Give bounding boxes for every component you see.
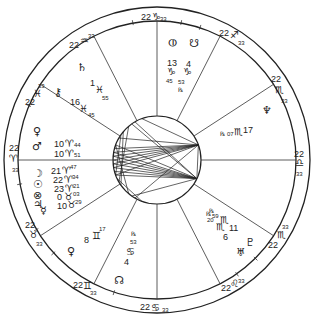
svg-text:♑: ♑	[183, 66, 192, 77]
svg-text:♈: ♈	[65, 148, 74, 159]
svg-text:22: 22	[73, 280, 83, 290]
svg-text:33: 33	[160, 16, 167, 22]
natal-chart-wheel: 22 ♈ 33 22 ♉ 33 22 ♊ 33 22 ♋ 33 22 ♌ 33 …	[0, 0, 312, 322]
house-cusp-line-2	[40, 184, 120, 236]
aspect-lines	[113, 119, 198, 202]
svg-text:♏: ♏	[216, 221, 225, 232]
zodiac-tick	[181, 20, 182, 25]
svg-text:6: 6	[223, 232, 228, 242]
svg-text:♑: ♑	[167, 66, 176, 77]
svg-text:♂: ♂	[32, 140, 42, 153]
planet-lilith: 13 ♑ 45	[166, 58, 177, 84]
cusp-label-h12: 33 ♓ 22	[25, 83, 45, 107]
svg-text:51: 51	[74, 152, 81, 158]
svg-text:55: 55	[102, 95, 109, 101]
svg-text:22: 22	[9, 143, 19, 153]
svg-text:22: 22	[268, 240, 278, 250]
svg-text:♅: ♅	[236, 246, 246, 259]
svg-text:♀: ♀	[67, 245, 75, 258]
aspect-line	[132, 124, 197, 179]
svg-text:☋: ☋	[189, 37, 199, 50]
svg-text:℞: ℞	[220, 131, 225, 137]
aspect-line	[132, 179, 197, 196]
svg-text:33: 33	[12, 167, 19, 173]
svg-text:33: 33	[281, 98, 288, 104]
svg-text:33: 33	[162, 307, 169, 313]
svg-text:53: 53	[130, 239, 137, 245]
svg-text:♐: ♐	[230, 29, 239, 40]
svg-text:4: 4	[124, 257, 129, 267]
planet-neptune: ♆ ℞ 07 ♏ 17	[220, 104, 272, 137]
house-cusp-line-11	[94, 36, 137, 121]
svg-text:33: 33	[90, 290, 97, 296]
svg-text:♄: ♄	[77, 61, 87, 74]
svg-text:♎: ♎	[295, 157, 304, 168]
svg-text:33: 33	[238, 278, 245, 284]
svg-text:♀: ♀	[33, 125, 41, 138]
cusp-label-h10: 22 ♑ 33	[141, 11, 167, 22]
svg-text:♏: ♏	[275, 84, 284, 95]
svg-text:♋: ♋	[151, 302, 160, 313]
svg-text:♓: ♓	[95, 84, 104, 95]
svg-text:34: 34	[72, 174, 79, 180]
svg-text:33: 33	[238, 40, 245, 46]
svg-text:10: 10	[54, 149, 64, 159]
svg-text:22: 22	[25, 97, 35, 107]
svg-text:11: 11	[229, 223, 238, 233]
svg-text:22: 22	[219, 28, 229, 38]
svg-text:03: 03	[73, 191, 80, 197]
planet-chiron: ⚷ 16 ♓ 45	[54, 86, 95, 118]
svg-text:45: 45	[88, 112, 95, 118]
svg-text:22: 22	[69, 40, 79, 50]
zodiac-tick	[132, 20, 133, 25]
svg-text:22: 22	[140, 302, 150, 312]
svg-text:33: 33	[88, 33, 95, 39]
svg-text:22: 22	[141, 12, 151, 22]
svg-text:♏: ♏	[277, 229, 286, 240]
svg-text:♉: ♉	[29, 229, 38, 240]
svg-text:44: 44	[74, 142, 81, 148]
planet-pluto-group: ℞ ℞ 59 20 ♏ ♏ 11 6 ♇ ♅	[206, 208, 255, 259]
aspect-line	[197, 145, 198, 179]
svg-text:♈: ♈	[9, 153, 18, 164]
cusp-label-h3: 22 ♊ 33	[73, 280, 97, 296]
zodiac-tick	[17, 184, 22, 185]
cusp-label-h5: 22 ♌ 33	[221, 278, 245, 293]
planet-true-node: ℞ 53 ♋ 4 ☊	[114, 231, 137, 287]
aspect-line	[113, 145, 198, 160]
svg-text:22: 22	[271, 74, 281, 84]
svg-text:℞: ℞	[131, 231, 136, 237]
svg-text:8: 8	[84, 235, 89, 245]
svg-text:♏: ♏	[234, 126, 243, 137]
svg-text:33: 33	[282, 224, 289, 230]
cusp-label-h7: 22 ♎ 33	[294, 149, 304, 177]
svg-text:29: 29	[75, 199, 82, 205]
cusp-label-h11: 22 ♒ 33	[69, 33, 95, 50]
svg-text:45: 45	[166, 78, 173, 84]
svg-text:17: 17	[243, 125, 253, 135]
svg-text:⚷: ⚷	[54, 86, 62, 99]
svg-text:10: 10	[54, 139, 64, 149]
svg-text:♆: ♆	[262, 104, 272, 117]
cusp-label-h1: 22 ♈ 33	[9, 143, 19, 173]
svg-text:20: 20	[207, 217, 214, 223]
svg-text:☊: ☊	[114, 274, 124, 287]
svg-text:10: 10	[57, 201, 67, 211]
planet-venus-house3: 8 ♊ 17 ♀	[67, 226, 106, 258]
svg-text:47: 47	[70, 164, 77, 170]
svg-text:♋: ♋	[126, 246, 135, 257]
svg-text:℞: ℞	[178, 87, 183, 93]
planet-vertex: ⦶	[168, 36, 177, 49]
svg-text:53: 53	[178, 79, 185, 85]
svg-text:♓: ♓	[79, 103, 88, 114]
svg-text:33: 33	[296, 171, 303, 177]
svg-text:17: 17	[99, 226, 106, 232]
svg-text:21: 21	[73, 183, 80, 189]
svg-text:33: 33	[36, 241, 43, 247]
svg-text:⦶: ⦶	[168, 36, 177, 49]
svg-text:☿: ☿	[40, 204, 47, 217]
planet-mercury: ☿ 10 ♉ 29	[40, 199, 82, 217]
svg-text:♇: ♇	[245, 236, 255, 249]
planet-saturn: ♄ 1 ♓ 55	[77, 61, 109, 101]
cusp-label-h4: 22 ♋ 33	[140, 302, 169, 313]
